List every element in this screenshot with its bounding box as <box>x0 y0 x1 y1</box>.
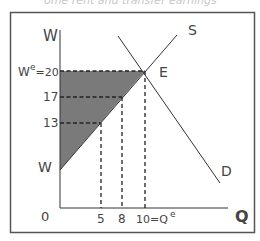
x-tick-5: 5 <box>97 212 105 226</box>
y-axis-label: W <box>43 27 58 45</box>
y-tick-17: 17 <box>43 90 58 104</box>
x-tick-qe: 10=Qe <box>136 209 176 226</box>
supply-label: S <box>188 22 197 38</box>
demand-label: D <box>221 163 232 179</box>
x-tick-8: 8 <box>118 212 126 226</box>
economic-rent-diagram: W S E D W 0 Q We=20 17 13 5 8 10=Qe <box>0 0 260 241</box>
equilibrium-label: E <box>159 64 168 80</box>
y-tick-13: 13 <box>43 116 58 130</box>
demand-curve <box>118 36 220 183</box>
wage-intercept-label: W <box>38 159 52 175</box>
x-axis-label: Q <box>235 207 249 226</box>
y-tick-we: We=20 <box>18 62 59 79</box>
origin-label: 0 <box>41 209 49 224</box>
